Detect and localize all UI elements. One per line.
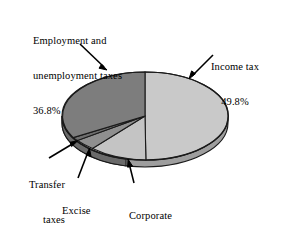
pie-label-income-tax: Income tax 49.8% [211, 37, 259, 131]
pie-label-corporate-line1: Corporate [129, 210, 176, 222]
pie-label-transfer-line1: Transfer [9, 179, 65, 191]
pie-label-employment-value: 36.8% [33, 105, 122, 117]
pie-label-excise-line1: Excise [62, 205, 91, 217]
pie-label-corporate-income-tax: Corporate income tax 10.1% [129, 186, 176, 232]
pie-label-income-value: 49.8% [211, 96, 259, 108]
leader-line-income [192, 55, 213, 76]
pie-label-employment-line1: Employment and [33, 35, 122, 47]
pie-label-transfer-taxes: Transfer taxes .7% [9, 155, 65, 232]
leader-arrowhead-income [189, 71, 195, 79]
pie-chart-figure: Employment and unemployment taxes 36.8% … [0, 0, 282, 232]
pie-label-employment-unemployment-taxes: Employment and unemployment taxes 36.8% [33, 11, 122, 141]
pie-label-income-line1: Income tax [211, 61, 259, 73]
pie-label-transfer-line2: taxes [9, 214, 65, 226]
leader-line-excise [78, 152, 88, 178]
pie-label-excise-taxes: Excise taxes 2.6% [62, 181, 91, 232]
pie-label-employment-line2: unemployment taxes [33, 70, 122, 82]
